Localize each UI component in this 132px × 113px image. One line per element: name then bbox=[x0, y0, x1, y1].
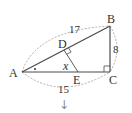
length-bc: 8 bbox=[113, 43, 119, 55]
triangle-diagram: A B C D E x 17 8 15 ↓ bbox=[0, 0, 132, 113]
label-b: B bbox=[107, 12, 115, 26]
label-e: E bbox=[73, 73, 80, 87]
label-a: A bbox=[9, 66, 18, 80]
angle-mark-a bbox=[34, 68, 36, 70]
length-ac: 15 bbox=[58, 83, 70, 95]
down-arrow-icon: ↓ bbox=[59, 98, 69, 112]
right-angle-mark-c bbox=[104, 66, 110, 72]
length-ab: 17 bbox=[69, 23, 81, 35]
label-c: C bbox=[109, 73, 117, 87]
label-d: D bbox=[58, 37, 67, 51]
angle-label-x: x bbox=[62, 59, 69, 73]
